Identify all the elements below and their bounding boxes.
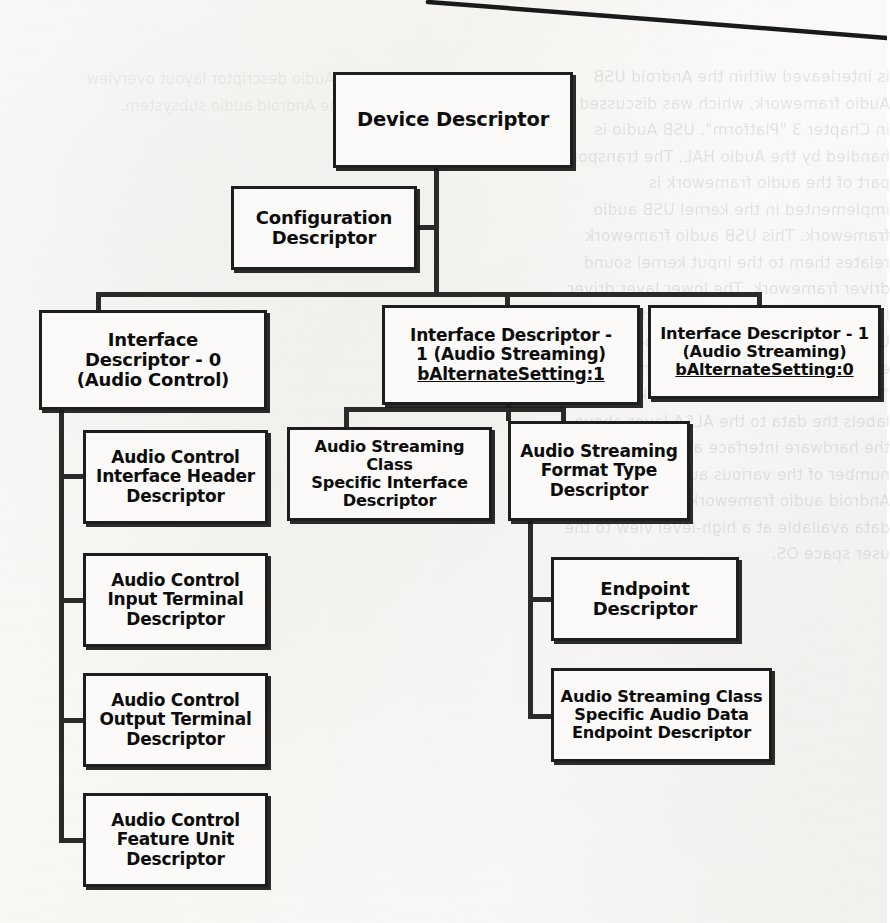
node-interface-descriptor-0-audio-control[interactable]: Interface Descriptor - 0 (Audio Control) (39, 310, 267, 410)
node-interface-descriptor-1-alt1-label: Interface Descriptor - 1 (Audio Streamin… (410, 326, 612, 364)
node-interface-descriptor-1-alt0-label: Interface Descriptor - 1 (Audio Streamin… (660, 325, 868, 361)
node-audio-control-feature-unit-label: Audio Control Feature Unit Descriptor (111, 811, 240, 868)
node-interface-descriptor-1-alt-setting-1[interactable]: Interface Descriptor - 1 (Audio Streamin… (382, 305, 640, 405)
node-audio-control-interface-header-descriptor[interactable]: Audio Control Interface Header Descripto… (83, 430, 268, 524)
node-audio-control-input-terminal-label: Audio Control Input Terminal Descriptor (107, 571, 243, 628)
node-audio-control-output-terminal-label: Audio Control Output Terminal Descriptor (99, 691, 251, 748)
node-audio-control-input-terminal-descriptor[interactable]: Audio Control Input Terminal Descriptor (83, 553, 268, 647)
node-interface-descriptor-1-alt1-balternatesetting: bAlternateSetting:1 (410, 365, 612, 384)
node-audio-streaming-format-type-label: Audio Streaming Format Type Descriptor (520, 442, 677, 499)
node-interface-descriptor-0-label: Interface Descriptor - 0 (Audio Control) (77, 330, 229, 390)
node-configuration-descriptor-label: Configuration Descriptor (256, 208, 392, 248)
node-device-descriptor-label: Device Descriptor (357, 109, 549, 131)
node-device-descriptor[interactable]: Device Descriptor (333, 72, 573, 168)
node-audio-control-interface-header-label: Audio Control Interface Header Descripto… (96, 448, 255, 505)
node-configuration-descriptor[interactable]: Configuration Descriptor (231, 186, 417, 270)
node-audio-streaming-class-specific-audio-data-endpoint-descriptor[interactable]: Audio Streaming Class Specific Audio Dat… (551, 668, 772, 762)
node-audio-streaming-class-specific-interface-descriptor[interactable]: Audio Streaming Class Specific Interface… (287, 427, 492, 521)
node-interface-descriptor-1-alt-setting-0[interactable]: Interface Descriptor - 1 (Audio Streamin… (648, 305, 881, 399)
node-audio-control-output-terminal-descriptor[interactable]: Audio Control Output Terminal Descriptor (83, 673, 268, 767)
node-interface-descriptor-1-alt0-balternatesetting: bAlternateSetting:0 (660, 361, 868, 379)
node-endpoint-descriptor[interactable]: Endpoint Descriptor (551, 557, 739, 641)
node-audio-streaming-class-specific-endpoint-label: Audio Streaming Class Specific Audio Dat… (561, 688, 763, 742)
node-audio-streaming-format-type-descriptor[interactable]: Audio Streaming Format Type Descriptor (508, 421, 690, 521)
node-audio-control-feature-unit-descriptor[interactable]: Audio Control Feature Unit Descriptor (83, 793, 268, 887)
node-audio-streaming-class-specific-interface-label: Audio Streaming Class Specific Interface… (294, 438, 485, 511)
node-endpoint-descriptor-label: Endpoint Descriptor (593, 579, 697, 619)
